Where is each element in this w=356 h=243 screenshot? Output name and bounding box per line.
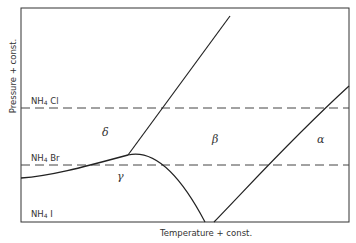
gamma-phase-label: γ — [117, 170, 124, 183]
nh4i-label: NH4 I — [31, 209, 53, 219]
y-axis-label: Pressure + const. — [8, 31, 18, 121]
beta-alpha-boundary — [214, 86, 349, 222]
nh4br-label: NH4 Br — [31, 153, 60, 163]
delta-phase-label: δ — [102, 126, 109, 139]
alpha-phase-label: α — [317, 133, 324, 146]
x-axis-label: Temperature + const. — [160, 228, 252, 238]
phase-diagram — [0, 0, 356, 243]
beta-phase-label: β — [212, 133, 218, 146]
gamma-beta-boundary — [128, 154, 205, 222]
nh4cl-label: NH4 Cl — [31, 96, 59, 106]
